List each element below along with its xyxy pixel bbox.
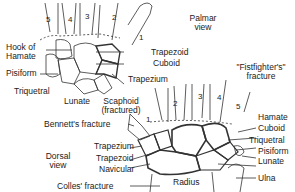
label-palmar-pisiform: Pisiform xyxy=(6,69,37,78)
label-radius: Radius xyxy=(173,178,199,187)
label-ulna: Ulna xyxy=(258,174,275,183)
fistfighters-line2: fracture xyxy=(228,72,294,81)
dorsal-digit-3: 3 xyxy=(198,93,202,101)
label-bennetts-fracture: Bennett's fracture xyxy=(44,120,110,129)
dorsal-digit-5: 5 xyxy=(236,103,240,111)
dorsal-digit-4: 4 xyxy=(217,94,221,102)
palmar-digit-1: 1 xyxy=(139,34,143,42)
label-colles-fracture: Colles' fracture xyxy=(57,182,113,191)
hook-of-hamate-line2: Hamate xyxy=(6,52,36,61)
label-dorsal-lunate: Lunate xyxy=(258,157,284,166)
dorsal-view-label: Dorsal view xyxy=(40,152,76,170)
label-dorsal-pisiform: Pisiform xyxy=(258,147,289,156)
label-fistfighters-fracture: "Fistfighter's" fracture xyxy=(228,63,294,81)
label-palmar-trapezoid: Trapezoid xyxy=(151,48,188,57)
palmar-digit-5: 5 xyxy=(46,16,50,24)
label-dorsal-triquetral: Triquetral xyxy=(249,136,285,145)
dorsal-view-label-line2: view xyxy=(40,161,76,170)
palmar-view-label-line2: view xyxy=(178,23,228,32)
palmar-digit-3: 3 xyxy=(85,13,89,21)
palmar-digit-2: 2 xyxy=(112,14,116,22)
palmar-view-label: Palmar view xyxy=(178,14,228,32)
label-dorsal-cuboid: Cuboid xyxy=(258,124,285,133)
label-palmar-triquetral: Triquetral xyxy=(14,87,50,96)
dorsal-digit-1: 1 xyxy=(146,116,150,124)
dorsal-digit-2: 2 xyxy=(173,100,177,108)
label-hook-of-hamate: Hook of Hamate xyxy=(6,43,36,61)
label-palmar-trapezium: Trapezium xyxy=(128,75,168,84)
wrist-bones-diagram: 5 4 3 2 1 Palmar view Hook of Hamate Pis… xyxy=(0,0,295,192)
label-navicular: Navicular xyxy=(99,165,134,174)
palmar-digit-4: 4 xyxy=(68,16,72,24)
label-dorsal-hamate: Hamate xyxy=(258,113,288,122)
label-dorsal-trapezoid: Trapezoid xyxy=(96,154,133,163)
label-scaphoid-fractured: Scaphoid (fractured) xyxy=(99,97,143,115)
label-dorsal-trapezium: Trapezium xyxy=(94,142,134,151)
label-palmar-lunate: Lunate xyxy=(64,97,90,106)
label-palmar-cuboid: Cuboid xyxy=(153,59,180,68)
scaphoid-line2: (fractured) xyxy=(99,106,143,115)
